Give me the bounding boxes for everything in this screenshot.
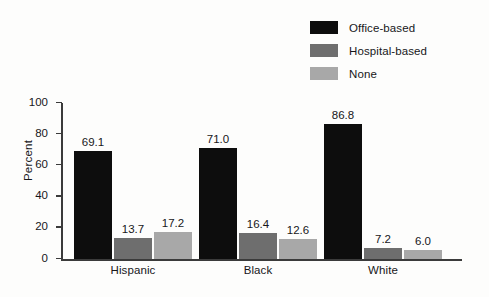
y-tick-20: 20 <box>56 226 62 227</box>
legend-swatch-hospital-based <box>310 44 338 57</box>
bar-value-label: 12.6 <box>287 224 309 236</box>
y-tick-label-0: 0 <box>42 252 48 264</box>
legend-item-office-based: Office-based <box>310 16 485 39</box>
legend-label-hospital-based: Hospital-based <box>349 45 427 57</box>
bar-black-none: 12.6 <box>279 239 317 259</box>
bar-group-white: 86.87.26.0White <box>324 103 442 259</box>
x-axis-label-white: White <box>368 264 398 276</box>
y-tick-label-40: 40 <box>35 189 48 201</box>
legend-swatch-none <box>310 67 338 80</box>
x-axis-label-black: Black <box>244 264 273 276</box>
bar-hispanic-none: 17.2 <box>154 232 192 259</box>
x-axis-label-hispanic: Hispanic <box>111 264 156 276</box>
bar-group-black: 71.016.412.6Black <box>199 103 317 259</box>
bar-value-label: 71.0 <box>207 133 229 145</box>
bar-white-hospital-based: 7.2 <box>364 248 402 259</box>
chart-legend: Office-based Hospital-based None <box>310 16 485 85</box>
y-tick-label-20: 20 <box>35 220 48 232</box>
legend-item-hospital-based: Hospital-based <box>310 39 485 62</box>
bar-value-label: 16.4 <box>247 218 269 230</box>
y-tick-label-100: 100 <box>29 96 48 108</box>
legend-label-office-based: Office-based <box>349 22 415 34</box>
legend-label-none: None <box>349 68 377 80</box>
y-tick-label-60: 60 <box>35 158 48 170</box>
legend-swatch-office-based <box>310 21 338 34</box>
bar-group-hispanic: 69.113.717.2Hispanic <box>74 103 192 259</box>
bar-black-office-based: 71.0 <box>199 148 237 259</box>
bar-value-label: 69.1 <box>82 136 104 148</box>
plot-area: 020406080100 69.113.717.2Hispanic71.016.… <box>62 103 462 259</box>
y-tick-80: 80 <box>56 133 62 134</box>
bar-white-none: 6.0 <box>404 250 442 259</box>
y-tick-0: 0 <box>56 258 62 259</box>
bar-black-hospital-based: 16.4 <box>239 233 277 259</box>
bar-value-label: 13.7 <box>122 223 144 235</box>
bar-value-label: 6.0 <box>415 235 431 247</box>
y-axis-title: Percent <box>22 140 34 181</box>
y-tick-40: 40 <box>56 195 62 196</box>
bar-chart-figure: Office-based Hospital-based None Percent… <box>0 0 489 297</box>
y-tick-100: 100 <box>56 102 62 103</box>
bar-value-label: 86.8 <box>332 109 354 121</box>
bar-white-office-based: 86.8 <box>324 124 362 259</box>
y-tick-label-80: 80 <box>35 127 48 139</box>
bar-hispanic-office-based: 69.1 <box>74 151 112 259</box>
x-axis-line <box>61 259 462 261</box>
y-axis-line <box>61 103 63 259</box>
bar-value-label: 7.2 <box>375 233 391 245</box>
bar-value-label: 17.2 <box>162 217 184 229</box>
y-tick-60: 60 <box>56 164 62 165</box>
legend-item-none: None <box>310 62 485 85</box>
bar-hispanic-hospital-based: 13.7 <box>114 238 152 259</box>
